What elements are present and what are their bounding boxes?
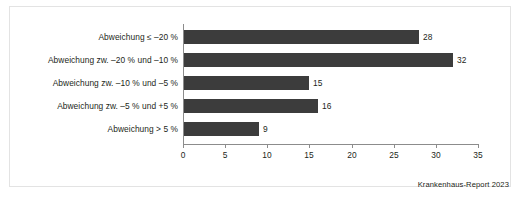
bar-segment[interactable] bbox=[183, 99, 318, 113]
x-tick bbox=[225, 145, 226, 148]
x-axis-line bbox=[183, 144, 479, 145]
x-tick-label: 20 bbox=[347, 150, 356, 160]
bar-row: Abweichung > 5 % 9 bbox=[0, 122, 531, 136]
bar-value-label: 28 bbox=[423, 32, 432, 42]
bar-segment[interactable] bbox=[183, 30, 419, 44]
x-tick bbox=[394, 145, 395, 148]
x-tick-label: 0 bbox=[181, 150, 186, 160]
bar-row: Abweichung zw. –20 % und –10 % 32 bbox=[0, 53, 531, 67]
x-tick-label: 25 bbox=[389, 150, 398, 160]
x-tick-label: 10 bbox=[262, 150, 271, 160]
x-tick-label: 5 bbox=[223, 150, 228, 160]
bar-segment[interactable] bbox=[183, 76, 309, 90]
chart-figure: Abweichung ≤ –20 % 28 Abweichung zw. –20… bbox=[0, 0, 531, 199]
x-tick bbox=[309, 145, 310, 148]
category-label: Abweichung zw. –20 % und –10 % bbox=[48, 55, 182, 65]
x-tick bbox=[267, 145, 268, 148]
bar-value-label: 15 bbox=[313, 78, 322, 88]
x-tick bbox=[352, 145, 353, 148]
bar-segment[interactable] bbox=[183, 122, 259, 136]
bar-chart-plot: Abweichung ≤ –20 % 28 Abweichung zw. –20… bbox=[0, 0, 531, 199]
x-tick-label: 30 bbox=[431, 150, 440, 160]
source-credit: Krankenhaus-Report 2023 bbox=[418, 180, 509, 189]
x-tick-label: 35 bbox=[473, 150, 482, 160]
x-tick bbox=[478, 145, 479, 148]
bar-value-label: 32 bbox=[457, 55, 466, 65]
x-tick bbox=[183, 145, 184, 148]
bar-segment[interactable] bbox=[183, 53, 453, 67]
x-tick-label: 15 bbox=[304, 150, 313, 160]
bar-row: Abweichung zw. –5 % und +5 % 16 bbox=[0, 99, 531, 113]
x-tick bbox=[436, 145, 437, 148]
category-label: Abweichung > 5 % bbox=[108, 124, 182, 134]
bar-row: Abweichung ≤ –20 % 28 bbox=[0, 30, 531, 44]
category-label: Abweichung zw. –10 % und –5 % bbox=[53, 78, 182, 88]
category-label: Abweichung ≤ –20 % bbox=[98, 32, 182, 42]
bar-value-label: 9 bbox=[263, 124, 268, 134]
category-label: Abweichung zw. –5 % und +5 % bbox=[57, 101, 182, 111]
y-axis-line bbox=[183, 24, 184, 144]
bar-row: Abweichung zw. –10 % und –5 % 15 bbox=[0, 76, 531, 90]
bar-value-label: 16 bbox=[322, 101, 331, 111]
